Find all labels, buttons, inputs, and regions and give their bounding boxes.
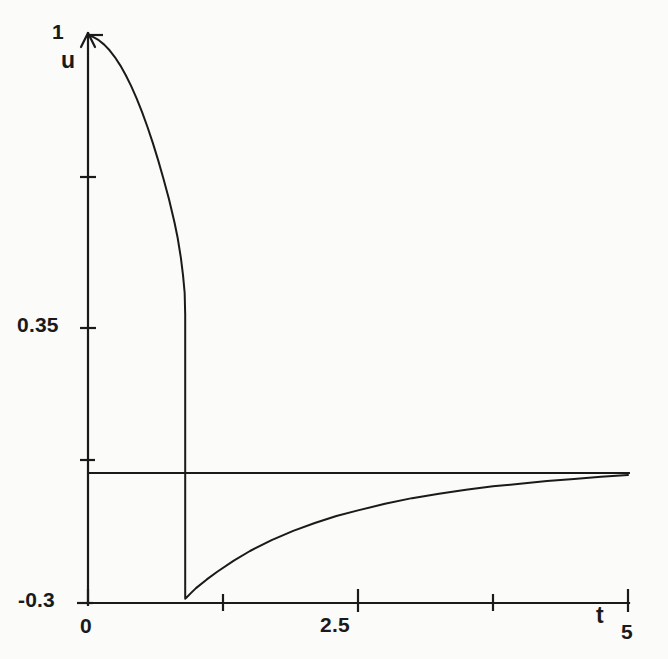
x-tick-label-left: 0 [80,614,92,638]
x-tick-label-center: 2.5 [320,613,350,637]
y-tick-label-top: 1 [52,20,64,44]
plot-figure: 1 0.35 -0.3 0 2.5 5 u t [0,0,668,659]
y-tick-label-bottom: -0.3 [18,588,55,612]
y-axis-label: u [61,47,75,74]
y-tick-label-mid: 0.35 [17,313,59,337]
x-axis-label: t [596,602,604,629]
plot-canvas [0,0,668,659]
data-curve-u [88,35,628,599]
x-tick-label-right: 5 [621,620,633,644]
